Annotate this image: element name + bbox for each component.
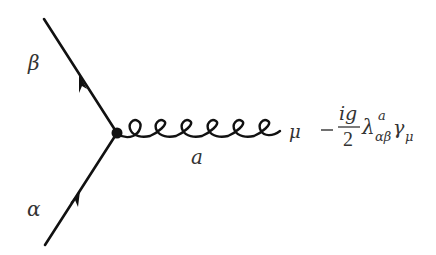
lambda-superscript: a <box>378 108 386 123</box>
vertex-dot <box>112 128 123 139</box>
label-alpha: α <box>27 197 41 221</box>
fraction-numerator: ig <box>339 102 357 124</box>
label-beta: β <box>27 51 40 75</box>
fermion-line-beta <box>44 19 117 133</box>
lambda-subscript: αβ <box>375 129 391 144</box>
fraction-denominator: 2 <box>343 128 353 150</box>
gluon-line <box>117 120 280 137</box>
vertex-factor: ig 2 λ a αβ γ μ <box>321 102 413 150</box>
label-lorentz-index: μ <box>289 121 301 142</box>
feynman-diagram: β α a μ ig 2 λ a αβ γ μ <box>0 0 436 255</box>
fermion-line-alpha <box>45 133 117 245</box>
gamma-subscript: μ <box>405 129 413 144</box>
gamma-symbol: γ <box>393 116 405 138</box>
lambda-symbol: λ <box>361 115 375 139</box>
label-gluon-color-index: a <box>191 145 203 169</box>
